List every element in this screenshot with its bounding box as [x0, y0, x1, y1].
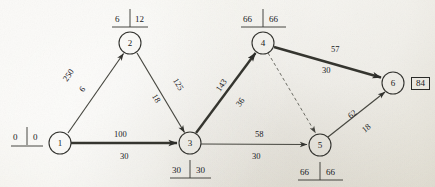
edge-1-2	[68, 54, 124, 134]
annotation-rules-node-5	[298, 162, 343, 180]
edge-2-3	[137, 53, 185, 133]
edge-3-5	[201, 144, 307, 145]
node-label-2: 2	[128, 39, 133, 48]
node-label-3: 3	[188, 139, 193, 148]
annotation-rules-node-4	[241, 9, 286, 27]
annotation-rules-node-1	[11, 127, 43, 146]
annotation-rules-node-2	[112, 9, 148, 27]
network-graph	[0, 0, 435, 187]
node-label-1: 1	[58, 139, 63, 148]
edge-5-6	[328, 92, 385, 137]
edge-3-4	[196, 53, 256, 133]
node-label-6: 6	[391, 79, 396, 88]
node-label-5: 5	[318, 141, 323, 150]
edge-4-5	[268, 53, 316, 133]
annotation-rules-node-3	[170, 160, 211, 178]
node-label-4: 4	[261, 39, 266, 48]
edge-4-6	[274, 47, 381, 78]
diagram-canvas: 1 2 3 4 5 6 0 0 6 12 30 30 66 66 66 66 8…	[0, 0, 435, 187]
